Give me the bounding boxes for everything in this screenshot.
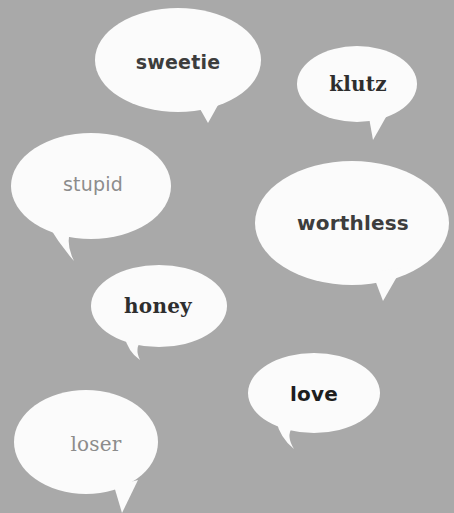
word-klutz: klutz: [329, 72, 387, 96]
word-worthless: worthless: [297, 211, 409, 235]
speech-bubble-canvas: sweetie klutz stupid worthless honey lov…: [0, 0, 454, 513]
word-honey: honey: [124, 294, 192, 318]
speech-bubble-stupid: [11, 133, 171, 261]
word-loser: loser: [70, 432, 121, 456]
word-love: love: [290, 382, 338, 406]
word-stupid: stupid: [63, 173, 123, 195]
word-sweetie: sweetie: [136, 51, 221, 73]
